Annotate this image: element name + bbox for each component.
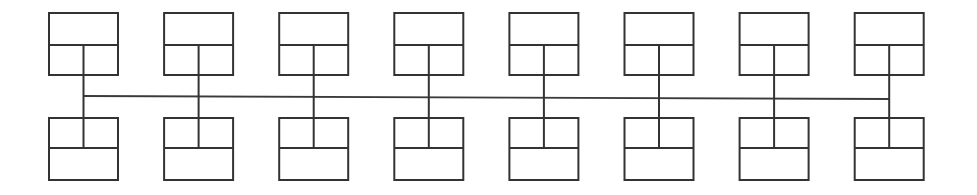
diagram-svg (0, 0, 977, 195)
diagram-unit (509, 13, 578, 180)
diagram-unit (625, 13, 694, 180)
bus-line (84, 96, 890, 99)
diagram-canvas (0, 0, 977, 195)
diagram-unit (855, 13, 924, 180)
bus-layer (84, 96, 890, 99)
diagram-unit (740, 13, 809, 180)
